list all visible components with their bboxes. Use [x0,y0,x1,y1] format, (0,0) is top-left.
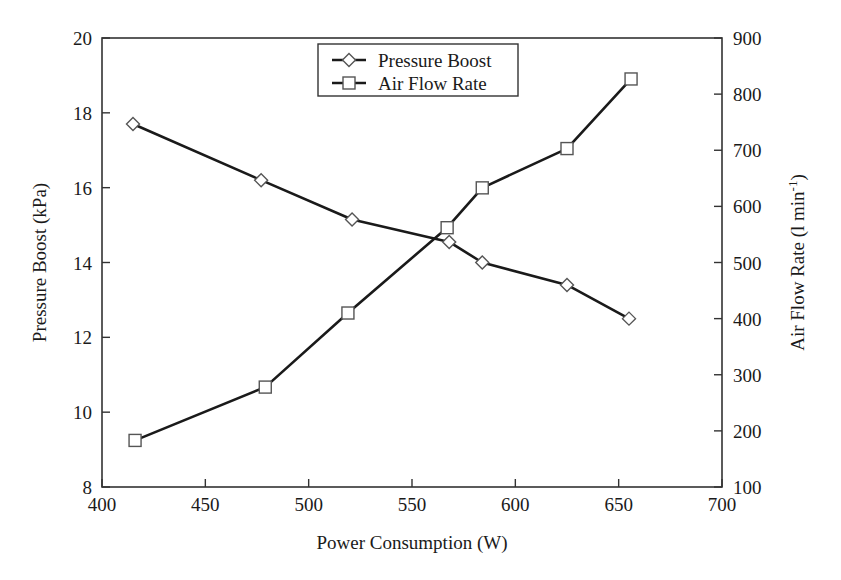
series-line [135,79,631,440]
data-point-diamond [346,213,359,226]
y2-tick-label: 800 [733,84,762,105]
y-tick-label: 12 [73,327,92,348]
series-2 [129,73,637,446]
y2-axis-title: Air Flow Rate (l min-1) [785,174,809,351]
y-axis-title: Pressure Boost (kPa) [29,183,51,342]
y-tick-label: 16 [73,178,92,199]
y-tick-label: 10 [73,402,92,423]
data-point-square [342,307,354,319]
data-point-square [343,77,355,89]
y-tick-label: 20 [73,28,92,49]
y2-tick-label: 200 [733,421,762,442]
y2-tick-label: 400 [733,309,762,330]
data-point-diamond [127,118,140,131]
x-tick-label: 700 [708,494,737,515]
y2-tick-label: 300 [733,365,762,386]
x-tick-label: 650 [604,494,633,515]
y2-tick-label: 700 [733,140,762,161]
x-tick-label: 450 [191,494,220,515]
data-point-diamond [623,312,636,325]
data-point-square [129,434,141,446]
data-point-square [476,182,488,194]
x-tick-label: 550 [398,494,427,515]
data-point-diamond [443,235,456,248]
legend-marker [343,77,355,89]
chart-canvas: 4004505005506006507008101214161820100200… [0,0,841,580]
legend: Pressure BoostAir Flow Rate [318,44,518,96]
data-point-diamond [255,174,268,187]
legend-label: Pressure Boost [378,50,492,71]
data-point-square [561,143,573,155]
data-point-square [259,381,271,393]
y2-tick-label: 900 [733,28,762,49]
y-tick-label: 18 [73,103,92,124]
legend-label: Air Flow Rate [378,73,487,94]
plot-frame [102,38,722,487]
x-tick-label: 600 [501,494,530,515]
data-point-square [625,73,637,85]
data-point-diamond [476,256,489,269]
y2-axis-title-text: Air Flow Rate (l min-1) [785,174,809,351]
series-1 [127,118,636,326]
chart-container: 4004505005506006507008101214161820100200… [0,0,841,580]
data-point-diamond [561,278,574,291]
y2-tick-label: 500 [733,253,762,274]
y2-tick-label: 600 [733,196,762,217]
y2-tick-label: 100 [733,477,762,498]
y-tick-label: 8 [83,477,93,498]
x-tick-label: 500 [294,494,323,515]
y-tick-label: 14 [73,253,93,274]
data-point-square [441,222,453,234]
x-axis-title: Power Consumption (W) [316,532,507,554]
x-tick-label: 400 [88,494,117,515]
